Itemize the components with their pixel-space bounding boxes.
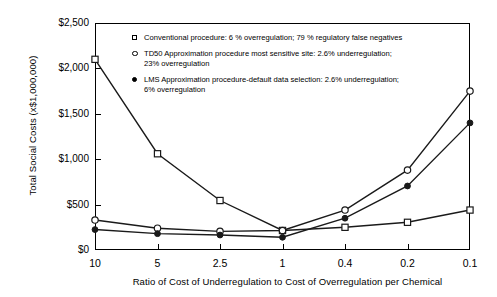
legend-item-label: TD50 Approximation procedure most sensit… <box>144 49 462 59</box>
x-tick-mark <box>408 244 409 250</box>
y-tick-label: $2,500 <box>37 17 89 28</box>
x-tick-mark <box>345 244 346 250</box>
open-circle-icon <box>132 51 138 57</box>
chart-figure: Total Social Costs (x$1,000,000) Ratio o… <box>0 0 497 297</box>
legend-item-conventional: Conventional procedure: 6 % overregulati… <box>132 33 462 43</box>
y-tick-label: $2,000 <box>37 62 89 73</box>
y-tick-mark <box>95 114 101 115</box>
x-tick-label: 0.1 <box>450 257 490 269</box>
x-tick-mark <box>220 244 221 250</box>
legend-item-label: Conventional procedure: 6 % overregulati… <box>144 33 462 43</box>
legend-item-td50: TD50 Approximation procedure most sensit… <box>132 49 462 69</box>
x-tick-mark <box>158 244 159 250</box>
x-tick-label: 2.5 <box>200 257 240 269</box>
x-tick-label: 0.4 <box>325 257 365 269</box>
chart-legend: Conventional procedure: 6 % overregulati… <box>132 33 462 101</box>
y-tick-mark <box>95 159 101 160</box>
open-square-icon <box>132 35 137 40</box>
y-axis-title: Total Social Costs (x$1,000,000) <box>27 16 38 236</box>
y-tick-label: $1,000 <box>37 153 89 164</box>
legend-item-label-cont: 6% overregulation <box>144 85 462 95</box>
x-tick-label: 5 <box>138 257 178 269</box>
y-tick-mark <box>95 68 101 69</box>
x-axis-title: Ratio of Cost of Underregulation to Cost… <box>95 276 480 287</box>
x-tick-label: 1 <box>263 257 303 269</box>
y-tick-label: $500 <box>37 199 89 210</box>
x-tick-label: 0.2 <box>388 257 428 269</box>
y-tick-label: $0 <box>37 244 89 255</box>
y-tick-mark <box>95 205 101 206</box>
y-tick-label: $1,500 <box>37 108 89 119</box>
legend-item-label: LMS Approximation procedure-default data… <box>144 75 462 85</box>
x-tick-label: 10 <box>75 257 115 269</box>
legend-item-lms: LMS Approximation procedure-default data… <box>132 75 462 95</box>
x-tick-mark <box>283 244 284 250</box>
legend-item-label-cont: 23% overregulation <box>144 59 462 69</box>
filled-circle-icon <box>132 77 137 82</box>
